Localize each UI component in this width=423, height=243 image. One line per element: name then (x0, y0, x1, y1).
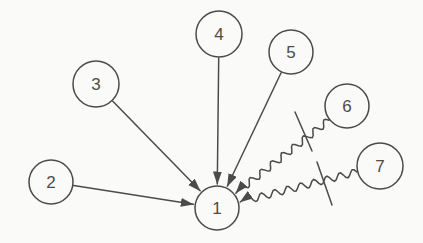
node-label-3: 3 (91, 75, 100, 94)
edge-3-to-1-arrow (113, 101, 200, 191)
node-label-1: 1 (212, 199, 221, 218)
edge-4-to-1-arrow (217, 58, 218, 184)
edge-6-to-1-wavy-arrow (236, 119, 329, 193)
edge-2-to-1-arrow (74, 186, 194, 205)
diagram-svg: 1234567 (0, 0, 423, 243)
node-label-6: 6 (342, 97, 351, 116)
node-label-5: 5 (286, 43, 295, 62)
node-label-4: 4 (214, 25, 223, 44)
diagram-canvas: 1234567 (0, 0, 423, 243)
node-label-2: 2 (46, 173, 55, 192)
edge-5-to-1-arrow (227, 73, 281, 187)
node-label-7: 7 (375, 157, 384, 176)
edge-7-to-1-wavy-arrow (240, 170, 357, 202)
